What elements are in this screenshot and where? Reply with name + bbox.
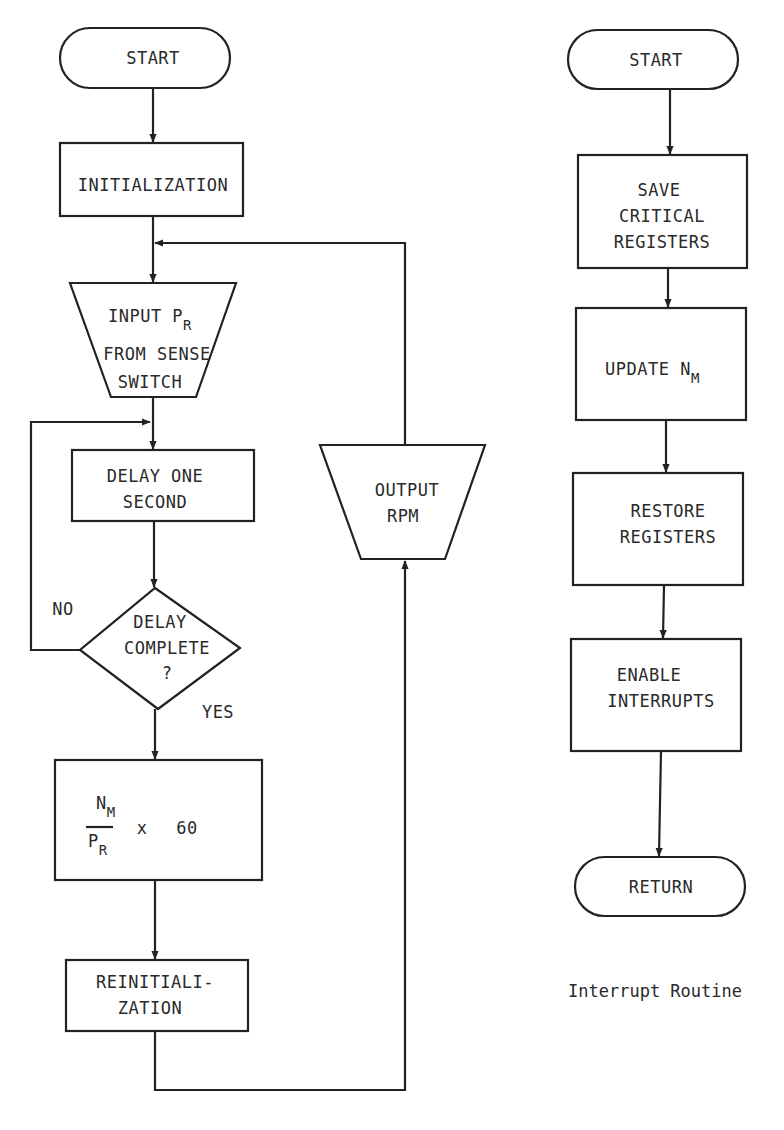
interrupt-start-terminator: START bbox=[568, 30, 738, 89]
delay-line1: DELAY ONE bbox=[107, 466, 204, 486]
formula-denominator-main: P bbox=[88, 831, 99, 851]
main-start-label: START bbox=[126, 48, 180, 68]
restore-line1: RESTORE bbox=[630, 501, 705, 521]
delay-complete-decision: DELAY COMPLETE ? bbox=[80, 588, 240, 709]
save-line2: CRITICAL bbox=[619, 206, 705, 226]
restore-registers-process: RESTORE REGISTERS bbox=[573, 473, 743, 585]
main-flowchart: START INITIALIZATION INPUT PR FROM SENSE… bbox=[31, 28, 485, 1090]
initialization-label: INITIALIZATION bbox=[78, 175, 228, 195]
input-pr-io: INPUT PR FROM SENSE SWITCH bbox=[70, 283, 236, 397]
enable-interrupts-process: ENABLE INTERRUPTS bbox=[571, 639, 741, 751]
return-terminator: RETURN bbox=[575, 857, 745, 916]
decision-line1: DELAY bbox=[133, 612, 187, 632]
save-line1: SAVE bbox=[638, 180, 681, 200]
delay-line2: SECOND bbox=[123, 492, 187, 512]
enable-line1: ENABLE bbox=[617, 665, 681, 685]
interrupt-routine-caption: Interrupt Routine bbox=[568, 981, 742, 1001]
main-start-terminator: START bbox=[60, 28, 230, 88]
output-rpm-io: OUTPUT RPM bbox=[320, 445, 485, 559]
interrupt-start-label: START bbox=[629, 50, 683, 70]
reinit-line1: REINITIALI- bbox=[96, 972, 214, 992]
formula-operator: x bbox=[137, 818, 148, 838]
compute-rpm-process: NM PR x 60 bbox=[55, 760, 262, 880]
reinit-line2: ZATION bbox=[118, 998, 182, 1018]
input-line3: SWITCH bbox=[118, 372, 182, 392]
update-label-main: UPDATE N bbox=[605, 359, 691, 379]
update-label-sub: M bbox=[691, 370, 700, 386]
formula-constant: 60 bbox=[176, 818, 197, 838]
formula-numerator-main: N bbox=[96, 793, 107, 813]
input-line1-sub: R bbox=[183, 317, 192, 333]
save-critical-registers-process: SAVE CRITICAL REGISTERS bbox=[578, 155, 747, 268]
initialization-process: INITIALIZATION bbox=[60, 143, 243, 216]
input-line1-main: INPUT P bbox=[108, 306, 183, 326]
formula-numerator-sub: M bbox=[107, 804, 116, 820]
update-nm-process: UPDATE NM bbox=[576, 308, 746, 420]
output-line2: RPM bbox=[387, 506, 419, 526]
decision-line2: COMPLETE bbox=[124, 638, 210, 658]
enable-line2: INTERRUPTS bbox=[607, 691, 714, 711]
no-branch-label: NO bbox=[52, 599, 73, 619]
interrupt-routine-flowchart: START SAVE CRITICAL REGISTERS UPDATE NM … bbox=[568, 30, 747, 1001]
input-line2: FROM SENSE bbox=[103, 344, 210, 364]
reinitialization-process: REINITIALI- ZATION bbox=[66, 960, 248, 1031]
restore-line2: REGISTERS bbox=[620, 527, 717, 547]
save-line3: REGISTERS bbox=[614, 232, 711, 252]
arrow-enable-to-return bbox=[659, 751, 661, 856]
delay-one-second-process: DELAY ONE SECOND bbox=[72, 450, 254, 521]
arrow-restore-to-enable bbox=[663, 585, 664, 638]
formula-denominator-sub: R bbox=[99, 842, 108, 858]
flowchart-canvas: START INITIALIZATION INPUT PR FROM SENSE… bbox=[0, 0, 784, 1130]
yes-branch-label: YES bbox=[202, 702, 234, 722]
output-line1: OUTPUT bbox=[375, 480, 439, 500]
return-label: RETURN bbox=[629, 877, 693, 897]
decision-line3: ? bbox=[162, 663, 173, 683]
